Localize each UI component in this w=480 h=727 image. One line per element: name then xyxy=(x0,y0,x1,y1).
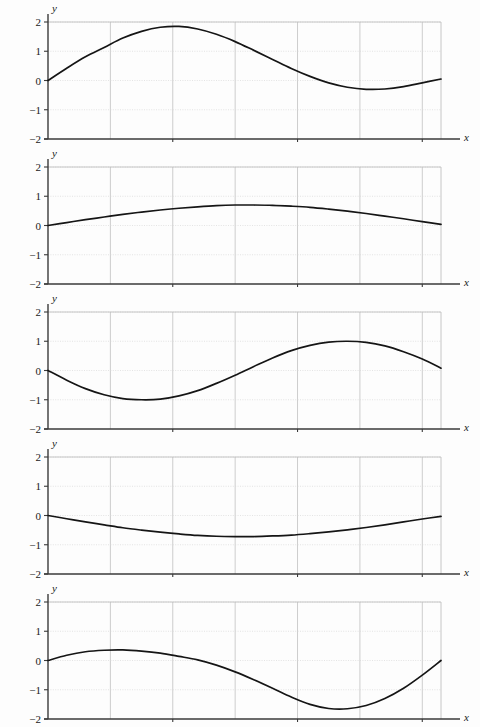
y-tick-label: −1 xyxy=(29,539,41,551)
y-axis-label: y xyxy=(51,147,57,159)
y-tick-label: 2 xyxy=(36,596,42,608)
y-tick-label: 1 xyxy=(36,480,42,492)
y-tick-label: 1 xyxy=(36,45,42,57)
chart-panel-4: 210−1−2123yx xyxy=(0,435,480,580)
chart-panel-2: 210−1−2123yx xyxy=(0,145,480,290)
y-tick-label: −1 xyxy=(29,394,41,406)
y-tick-label: 1 xyxy=(36,335,42,347)
x-axis-label: x xyxy=(463,421,469,433)
chart-panel-3: 210−1−2123yx xyxy=(0,290,480,435)
y-tick-label: 2 xyxy=(36,451,42,463)
y-axis-label: y xyxy=(51,437,57,449)
x-axis-label: x xyxy=(463,566,469,578)
y-tick-label: 2 xyxy=(36,16,42,28)
y-tick-label: 0 xyxy=(36,365,42,377)
y-tick-label: −1 xyxy=(29,684,41,696)
x-axis-label: x xyxy=(463,711,469,723)
y-tick-label: 1 xyxy=(36,625,42,637)
y-axis-label: y xyxy=(51,2,57,14)
y-axis-label: y xyxy=(51,292,57,304)
y-tick-label: 0 xyxy=(36,75,42,87)
chart-panel-5: 210−1−2123yx xyxy=(0,580,480,725)
y-axis-label: y xyxy=(51,582,57,594)
chart-panel-1: 210−1−2123yx xyxy=(0,0,480,145)
y-tick-label: 2 xyxy=(36,306,42,318)
y-tick-label: 1 xyxy=(36,190,42,202)
plot-area-4: 210−1−2123yx xyxy=(0,435,480,580)
plot-area-3: 210−1−2123yx xyxy=(0,290,480,435)
y-tick-label: −1 xyxy=(29,104,41,116)
y-tick-label: −2 xyxy=(29,713,41,725)
x-axis-label: x xyxy=(463,131,469,143)
y-tick-label: −2 xyxy=(29,278,41,290)
y-tick-label: 0 xyxy=(36,510,42,522)
plot-area-1: 210−1−2123yx xyxy=(0,0,480,145)
y-tick-label: −2 xyxy=(29,423,41,435)
y-tick-label: 0 xyxy=(36,220,42,232)
y-tick-label: −2 xyxy=(29,133,41,145)
x-tick-label: 3 xyxy=(420,723,426,725)
x-tick-label: 1 xyxy=(170,723,176,725)
plot-area-5: 210−1−2123yx xyxy=(0,580,480,725)
x-axis-label: x xyxy=(463,276,469,288)
x-tick-label: 2 xyxy=(295,723,301,725)
y-tick-label: −1 xyxy=(29,249,41,261)
y-tick-label: 0 xyxy=(36,655,42,667)
figure-container: 210−1−2123yx210−1−2123yx210−1−2123yx210−… xyxy=(0,0,480,727)
plot-area-2: 210−1−2123yx xyxy=(0,145,480,290)
y-tick-label: 2 xyxy=(36,161,42,173)
y-tick-label: −2 xyxy=(29,568,41,580)
